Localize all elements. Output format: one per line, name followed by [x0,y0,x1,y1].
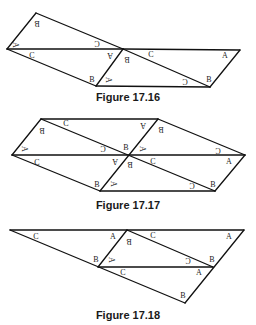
triangle-edge [36,13,123,49]
angle-label-c: C [94,39,99,48]
triangle-edge [7,49,96,86]
figure-caption-17-18: Figure 17.18 [0,309,256,321]
angle-label-c: C [120,268,125,277]
angle-label-a: A [226,157,232,166]
angle-label-c: C [63,119,68,128]
angle-label-b: B [94,180,99,189]
angle-label-c: C [33,232,38,241]
triangle-edge [123,49,210,87]
figure-caption-17-16: Figure 17.16 [0,91,256,103]
triangle-edge [127,230,213,267]
angle-label-b: B [209,255,214,264]
angle-label-a: A [107,257,116,263]
tessellation-diagram: BACCABBACACB CBABACBACCABCABACB CABCABAC… [0,0,256,325]
angle-label-c: C [29,51,34,60]
angle-label-b: B [127,160,132,169]
angle-label-c: C [150,231,155,240]
angle-label-c: C [185,256,190,265]
angle-label-c: C [189,181,194,190]
angle-label-b: B [34,19,39,28]
angle-label-c: C [34,158,39,167]
angle-label-a: A [104,77,113,83]
angle-label-b: B [93,255,98,264]
angle-label-c: C [150,157,155,166]
angle-label-a: A [110,232,116,241]
figure-caption-17-17: Figure 17.17 [0,199,256,211]
triangle-edge [158,119,245,155]
angle-label-b: B [126,237,131,246]
angle-label-a: A [222,51,228,60]
figure-17-18-drawing: CABCABACBCAB [10,230,244,303]
angle-label-a: A [109,181,118,187]
triangle-edge [12,155,100,191]
angle-label-a: A [138,146,147,152]
angle-label-a: A [140,121,146,130]
angle-label-b: B [124,55,129,64]
figure-17-16-drawing: BACCABBACACB [7,13,240,87]
angle-label-b: B [206,75,211,84]
angle-label-a: A [107,51,113,60]
angle-label-b: B [89,75,94,84]
angle-label-c: C [100,144,105,153]
angle-label-a: A [11,42,20,48]
angle-label-a: A [226,232,232,241]
angle-label-b: B [39,126,44,135]
angle-label-b: B [210,180,215,189]
angle-label-c: C [215,146,220,155]
triangle-edge [96,86,210,87]
angle-label-a: A [112,157,118,166]
angle-label-b: B [158,125,163,134]
angle-label-c: C [182,77,187,86]
angle-label-c: C [148,50,153,59]
angle-label-b: B [180,291,185,300]
angle-label-a: A [20,146,29,152]
angle-label-a: A [196,268,202,277]
angle-label-b: B [123,143,128,152]
figure-17-17-drawing: CBABACBACCABCABACB [12,119,245,192]
